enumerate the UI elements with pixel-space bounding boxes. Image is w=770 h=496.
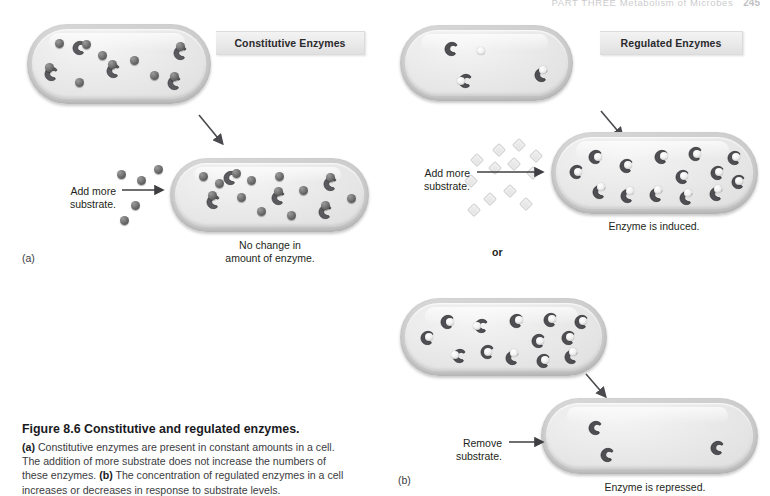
label-add-more-substrate-a: Add more substrate. [54,185,116,211]
substrate-sphere [130,56,139,65]
free-substrate-sphere [131,201,140,210]
cytoplasm [546,403,753,469]
substrate-sphere [326,173,335,182]
caption-tag-b: (b) [99,469,113,481]
bound-substrate [715,168,723,176]
bound-substrate [574,168,582,176]
cytoplasm [32,29,206,99]
free-substrate-diamond [467,203,481,217]
label-enzyme-is-induced: Enzyme is induced. [574,220,734,233]
bound-substrate [654,186,662,194]
bound-substrate [536,337,544,345]
substrate-sphere [208,191,217,200]
free-substrate-diamond [512,138,526,152]
substrate-sphere [299,186,308,195]
free-substrate-diamond [492,143,506,157]
cytoplasm [405,30,568,96]
enzyme [599,448,616,463]
substrate-sphere [232,169,241,178]
bound-substrate [714,185,722,193]
substrate-sphere [275,172,284,181]
substrate-sphere [82,40,91,49]
free-substrate-sphere [154,165,163,174]
substrate-sphere [98,51,107,60]
bound-substrate [693,150,701,158]
banner-regulated-enzymes: Regulated Enzymes [600,31,743,55]
figure-page: PART THREE Metabolism of Microbes 245 Co… [0,0,770,496]
page-number: 245 [743,0,760,8]
cytoplasm [556,137,753,209]
bound-substrate [425,333,433,341]
free-substrate-diamond [519,197,533,211]
cell-regulated-initial [400,25,573,101]
bound-substrate [473,322,481,330]
panel-label-a: (a) [22,252,35,264]
free-substrate-diamond [503,184,517,198]
banner-constitutive-label: Constitutive Enzymes [234,37,345,49]
label-no-change-amount-enzyme: No change in amount of enzyme. [190,239,350,265]
flow-arrow-diagonal [196,112,230,152]
bound-substrate [626,187,634,195]
label-remove-substrate: Remove substrate. [440,437,502,463]
bound-substrate [451,351,459,359]
substrate-sphere [199,172,208,181]
bound-substrate [457,77,465,85]
cell-sheen [49,33,185,51]
bound-substrate [510,349,518,357]
substrate-sphere [257,207,266,216]
substrate-sphere [45,63,54,72]
substrate-sphere [170,72,179,81]
free-substrate-sphere [117,170,126,179]
substrate-sphere [237,193,246,202]
cell-constitutive-initial [27,24,211,104]
bound-substrate [515,316,523,324]
substrate-sphere [287,211,296,220]
substrate-sphere [274,187,283,196]
running-head-text: PART THREE Metabolism of Microbes [552,0,734,8]
running-head: PART THREE Metabolism of Microbes 245 [552,0,760,8]
cell-enzyme-induced [551,132,758,214]
cell-regulated-full [400,298,607,376]
substrate-sphere [321,201,330,210]
remove-substrate-arrow [509,436,549,448]
banner-regulated-label: Regulated Enzymes [621,37,722,49]
label-or-connector: or [492,246,503,258]
cell-enzyme-repressed [541,398,758,474]
caption-tag-a: (a) [22,441,35,453]
caption-title: Figure 8.6 Constitutive and regulated en… [22,421,352,437]
bound-substrate [680,172,688,180]
bound-substrate [624,161,632,169]
add-substrate-arrow-b [477,166,549,178]
substrate-sphere [55,39,64,48]
free-substrate-sphere [120,216,129,225]
bound-substrate [735,177,743,185]
bound-substrate [541,356,549,364]
enzyme [443,42,460,57]
free-substrate-diamond [529,149,543,163]
bound-substrate [684,189,692,197]
substrate-sphere [75,78,84,87]
enzyme [709,441,726,456]
label-add-more-substrate-b: Add more substrate. [408,167,470,193]
cell-sheen [421,34,548,51]
add-substrate-arrow-a [122,184,169,196]
bound-substrate [566,333,574,341]
label-enzyme-is-repressed: Enzyme is repressed. [570,481,740,494]
free-substrate-diamond [470,153,484,167]
substrate-sphere [247,176,256,185]
substrate-sphere [176,42,185,51]
enzyme [587,421,604,436]
bound-substrate [446,318,454,326]
free-substrate [477,47,485,55]
bound-substrate [484,348,492,356]
bound-substrate [539,66,547,74]
substrate-sphere [347,194,356,203]
cell-constitutive-after [170,158,369,232]
bound-substrate [569,348,577,356]
bound-substrate [594,153,602,161]
bound-substrate [732,153,740,161]
bound-substrate [548,315,556,323]
panel-label-b: (b) [398,474,411,486]
cytoplasm [405,303,602,371]
substrate-sphere [150,71,159,80]
